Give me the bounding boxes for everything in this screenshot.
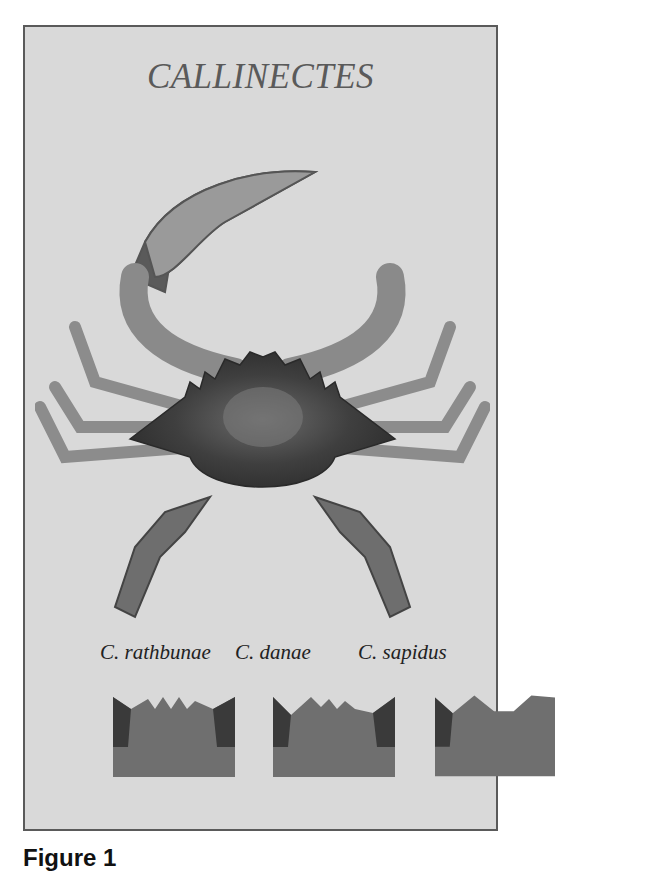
carapace-detail-danae (273, 687, 395, 777)
figure-plate: CALLINECTES (23, 25, 498, 831)
carapace-detail-sapidus (435, 687, 555, 777)
carapace-detail-rathbunae (113, 687, 235, 777)
species-label-sapidus: C. sapidus (358, 640, 447, 665)
figure-title: CALLINECTES (25, 57, 496, 97)
species-labels: C. rathbunae C. danae C. sapidus (25, 640, 496, 670)
species-label-rathbunae: C. rathbunae (100, 640, 211, 665)
crab-illustration (35, 127, 490, 637)
right-claw-icon (145, 171, 315, 277)
species-label-danae: C. danae (235, 640, 311, 665)
figure-caption: Figure 1 (23, 846, 116, 870)
